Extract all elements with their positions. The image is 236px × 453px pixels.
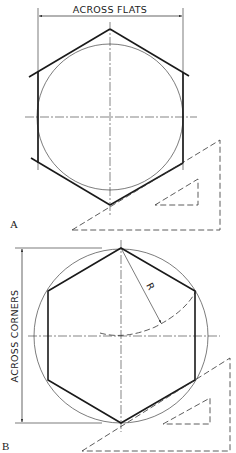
figure-a: ACROSS FLATS A (10, 4, 220, 230)
set-square-cutout (155, 179, 198, 205)
across-corners-label: ACROSS CORNERS (9, 290, 20, 383)
set-square-outline (82, 358, 230, 451)
radius-label: R (144, 281, 157, 292)
hex-edge-lower-left (31, 158, 110, 205)
radius-swing-arc (100, 291, 196, 335)
set-square-cutout (163, 398, 210, 424)
hex-edge-upper-left (29, 29, 110, 77)
across-flats-label: ACROSS FLATS (73, 4, 147, 15)
figure-b: ACROSS CORNERS R B (2, 240, 230, 452)
hex-edge-upper-right (110, 29, 189, 76)
figure-label-a: A (10, 218, 18, 230)
drawing-canvas: ACROSS FLATS A ACROSS CORNERS R (0, 0, 236, 453)
figure-label-b: B (2, 440, 9, 452)
